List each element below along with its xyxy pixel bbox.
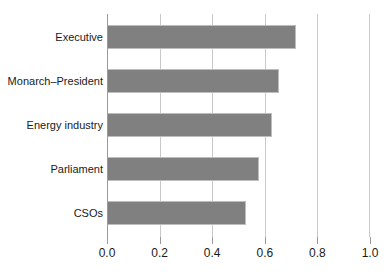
y-axis-spine	[107, 14, 108, 237]
bar-csos	[107, 201, 246, 225]
y-axis-label-parliament: Parliament	[2, 163, 103, 175]
bar-monarch-president	[107, 69, 279, 93]
x-axis: 0.0 0.2 0.4 0.6 0.8 1.0	[0, 237, 387, 277]
y-axis-labels: Executive Monarch–President Energy indus…	[0, 14, 103, 237]
gridline-5	[369, 14, 370, 237]
x-tick-label-5: 1.0	[350, 246, 387, 260]
y-axis-label-executive: Executive	[2, 31, 103, 43]
x-tick-label-4: 0.8	[297, 246, 337, 260]
x-tick-1	[160, 237, 161, 244]
x-tick-label-1: 0.2	[140, 246, 180, 260]
y-axis-label-csos: CSOs	[2, 207, 103, 219]
plot-area	[107, 14, 370, 237]
bar-executive	[107, 25, 296, 49]
x-tick-label-3: 0.6	[245, 246, 285, 260]
x-tick-label-0: 0.0	[87, 246, 127, 260]
gridline-4	[317, 14, 318, 237]
bar-chart: Executive Monarch–President Energy indus…	[0, 0, 387, 277]
x-tick-2	[212, 237, 213, 244]
x-tick-label-2: 0.4	[192, 246, 232, 260]
y-axis-label-monarch-president: Monarch–President	[2, 75, 103, 87]
bar-parliament	[107, 157, 259, 181]
x-tick-0	[107, 237, 108, 244]
x-tick-4	[317, 237, 318, 244]
y-axis-label-energy-industry: Energy industry	[2, 119, 103, 131]
x-tick-3	[265, 237, 266, 244]
bar-energy-industry	[107, 113, 272, 137]
x-tick-5	[370, 237, 371, 244]
x-axis-line	[107, 237, 370, 238]
